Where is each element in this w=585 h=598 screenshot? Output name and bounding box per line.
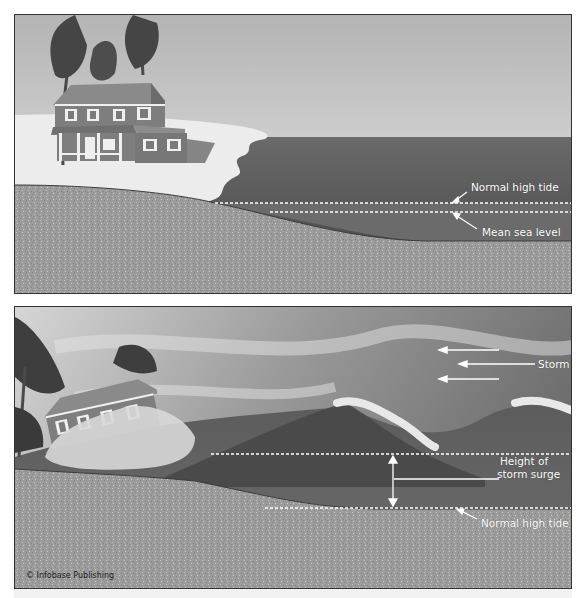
normal-high-tide-label: Normal high tide [481,517,569,529]
storm-scene-illustration [15,307,572,589]
normal-high-tide-label: Normal high tide [471,181,559,193]
height-of-storm-surge-label-line2: storm surge [497,468,560,480]
mean-sea-level-label: Mean sea level [482,226,561,238]
panel-storm-conditions: Storm Height of storm surge Normal high … [14,306,572,589]
panel-normal-conditions: Normal high tide Mean sea level [14,14,572,294]
storm-label: Storm [538,358,570,370]
height-of-storm-surge-label-line1: Height of [498,455,550,467]
copyright-notice: © Infobase Publishing [26,571,114,580]
bottom-margin [14,589,572,598]
normal-scene-illustration [15,15,572,294]
